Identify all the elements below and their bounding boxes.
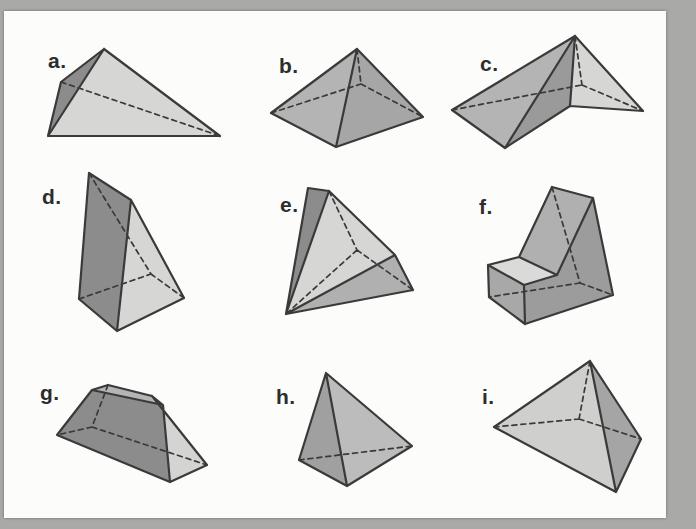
figure-label-d: d.	[42, 186, 62, 207]
figure-h	[299, 373, 412, 486]
figure-label-b: b.	[279, 55, 299, 76]
figure-d	[79, 173, 184, 331]
figure-label-h: h.	[276, 386, 296, 407]
figure-label-a: a.	[48, 50, 67, 71]
figure-label-e: e.	[280, 194, 299, 215]
figure-g	[57, 385, 207, 482]
figure-f	[488, 187, 613, 324]
scanned-textbook-page: a. b. c. d. e. f. g. h. i.	[0, 0, 696, 529]
figure-e	[286, 188, 413, 314]
figure-label-i: i.	[482, 386, 495, 407]
figure-i	[494, 361, 641, 492]
solids-diagram	[0, 0, 696, 529]
figure-a	[48, 49, 220, 136]
figure-label-c: c.	[480, 53, 499, 74]
figure-label-g: g.	[40, 382, 60, 403]
figure-label-f: f.	[479, 196, 493, 217]
